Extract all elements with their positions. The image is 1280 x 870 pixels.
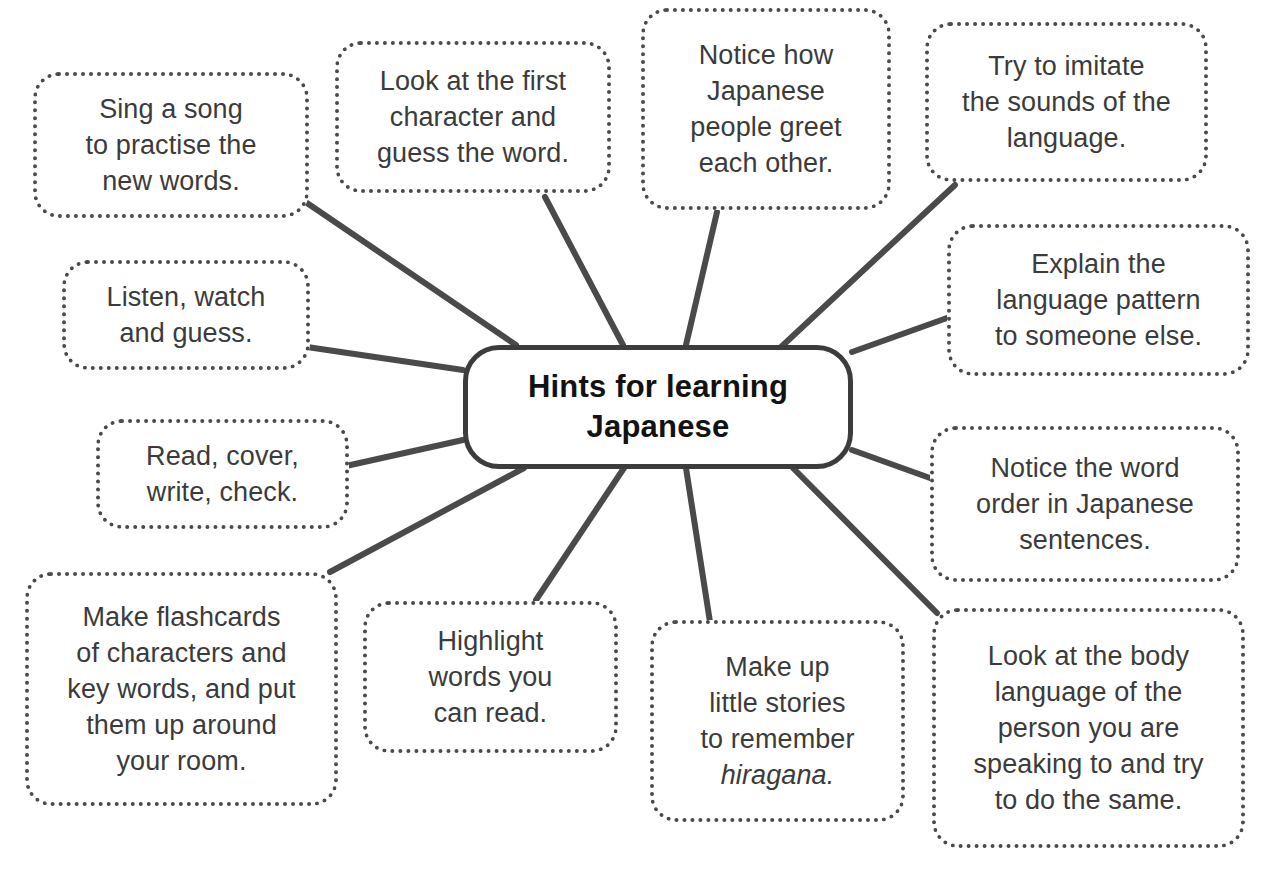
- node-sing-a-song[interactable]: Sing a song to practise the new words.: [33, 72, 309, 218]
- node-read-cover-write-check[interactable]: Read, cover, write, check.: [96, 419, 349, 529]
- node-look-at-body-language[interactable]: Look at the body language of the person …: [932, 608, 1245, 848]
- node-explain-language-pattern[interactable]: Explain the language pattern to someone …: [947, 224, 1250, 376]
- connector-notice-how-japanese-people-greet: [686, 212, 717, 345]
- node-listen-watch-and-guess[interactable]: Listen, watch and guess.: [62, 260, 310, 370]
- connector-look-at-body-language: [793, 468, 937, 613]
- node-label-look-at-first-character: Look at the first character and guess th…: [377, 63, 569, 172]
- node-highlight-words-you-can-read[interactable]: Highlight words you can read.: [363, 601, 618, 753]
- connector-explain-language-pattern: [852, 318, 947, 352]
- node-label-sing-a-song: Sing a song to practise the new words.: [85, 91, 256, 200]
- node-label-try-to-imitate-sounds: Try to imitate the sounds of the languag…: [962, 48, 1171, 157]
- connector-look-at-first-character: [545, 197, 623, 345]
- node-try-to-imitate-sounds[interactable]: Try to imitate the sounds of the languag…: [925, 22, 1208, 182]
- center-node-hints-for-learning-japanese[interactable]: Hints for learning Japanese: [463, 345, 853, 469]
- node-label-look-at-body-language: Look at the body language of the person …: [973, 638, 1203, 819]
- node-label-make-up-little-stories-text: Make up little stories to remember: [700, 652, 854, 754]
- node-label-explain-language-pattern: Explain the language pattern to someone …: [995, 246, 1202, 355]
- node-notice-word-order[interactable]: Notice the word order in Japanese senten…: [930, 426, 1240, 582]
- connector-make-flashcards: [330, 468, 524, 572]
- node-notice-how-japanese-people-greet[interactable]: Notice how Japanese people greet each ot…: [641, 8, 891, 210]
- node-label-read-cover-write-check: Read, cover, write, check.: [146, 438, 299, 510]
- node-look-at-first-character[interactable]: Look at the first character and guess th…: [335, 41, 611, 193]
- node-label-make-flashcards: Make flashcards of characters and key wo…: [67, 599, 295, 780]
- node-label-notice-word-order: Notice the word order in Japanese senten…: [976, 450, 1194, 559]
- node-label-notice-how-japanese-people-greet: Notice how Japanese people greet each ot…: [690, 37, 841, 182]
- mind-map-diagram: Hints for learning Japanese Sing a song …: [0, 0, 1280, 870]
- connector-listen-watch-and-guess: [307, 347, 463, 370]
- connector-highlight-words-you-can-read: [536, 468, 624, 600]
- node-make-flashcards[interactable]: Make flashcards of characters and key wo…: [25, 572, 338, 806]
- node-label-make-up-little-stories: Make up little stories to remember hirag…: [700, 649, 854, 794]
- connector-make-up-little-stories: [686, 468, 710, 622]
- node-label-listen-watch-and-guess: Listen, watch and guess.: [107, 279, 266, 351]
- italic-term-hiragana: hiragana.: [721, 760, 835, 790]
- connector-notice-word-order: [852, 450, 930, 478]
- center-node-label: Hints for learning Japanese: [528, 367, 788, 446]
- connector-read-cover-write-check: [346, 440, 463, 466]
- node-make-up-little-stories[interactable]: Make up little stories to remember hirag…: [650, 620, 905, 822]
- connector-sing-a-song: [307, 203, 516, 345]
- node-label-highlight-words-you-can-read: Highlight words you can read.: [429, 623, 553, 732]
